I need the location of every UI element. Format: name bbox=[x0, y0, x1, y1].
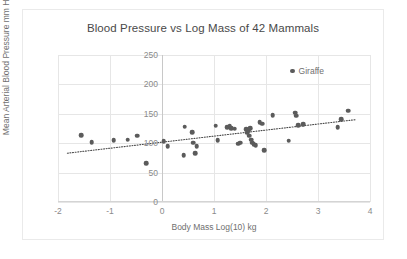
data-point bbox=[260, 121, 265, 126]
legend-label: Giraffe bbox=[299, 66, 324, 76]
x-tick-label: 4 bbox=[368, 206, 373, 216]
data-point bbox=[301, 122, 306, 127]
data-point bbox=[296, 123, 301, 128]
x-tick-label: -1 bbox=[106, 206, 114, 216]
data-point bbox=[111, 138, 116, 143]
data-point bbox=[215, 138, 220, 143]
gridline-x bbox=[370, 55, 371, 202]
data-point bbox=[262, 148, 267, 153]
data-point bbox=[238, 140, 243, 145]
y-tick-label: 50 bbox=[149, 168, 162, 178]
data-point bbox=[182, 153, 187, 158]
chart-title: Blood Pressure vs Log Mass of 42 Mammals bbox=[22, 22, 384, 34]
data-point bbox=[248, 126, 253, 131]
data-point bbox=[195, 144, 200, 149]
y-axis-title: Mean Arterial Blood Pressure mm Hg bbox=[1, 0, 11, 165]
data-point bbox=[193, 151, 198, 156]
plot-area: 050100150200250 -2-101234 bbox=[58, 55, 370, 202]
data-point bbox=[294, 113, 299, 118]
x-tick-label: 1 bbox=[212, 206, 217, 216]
data-point bbox=[144, 161, 149, 166]
trendline bbox=[58, 55, 370, 202]
data-point bbox=[183, 124, 188, 129]
data-point bbox=[90, 140, 95, 145]
y-tick-label: 100 bbox=[144, 138, 162, 148]
data-point bbox=[135, 133, 140, 138]
data-point bbox=[253, 143, 258, 148]
data-point bbox=[339, 117, 344, 122]
x-tick-label: 3 bbox=[316, 206, 321, 216]
data-point bbox=[213, 123, 218, 128]
data-point bbox=[346, 109, 351, 114]
x-tick-label: -2 bbox=[54, 206, 62, 216]
chart-legend: Giraffe bbox=[290, 66, 324, 76]
data-point bbox=[287, 139, 292, 144]
data-point bbox=[79, 133, 84, 138]
data-point bbox=[270, 113, 275, 118]
x-axis-title: Body Mass Log(10) kg bbox=[58, 222, 370, 232]
x-tick-label: 2 bbox=[264, 206, 269, 216]
y-tick-label: 200 bbox=[144, 79, 162, 89]
data-point bbox=[190, 130, 195, 135]
x-tick-label: 0 bbox=[160, 206, 165, 216]
y-tick-label: 250 bbox=[144, 50, 162, 60]
data-point bbox=[165, 144, 170, 149]
data-point bbox=[233, 126, 238, 131]
data-point bbox=[335, 125, 340, 130]
legend-marker-icon bbox=[290, 69, 295, 74]
y-tick-label: 150 bbox=[144, 109, 162, 119]
gridline-y bbox=[58, 202, 370, 203]
data-point bbox=[125, 137, 130, 142]
